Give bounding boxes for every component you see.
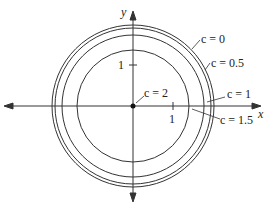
curve-label-c-0: c = 0: [201, 32, 225, 46]
center-point: [131, 104, 136, 109]
y-axis-label: y: [120, 5, 127, 19]
y-axis-down-arrow-icon: [130, 193, 136, 202]
x-axis-left-arrow-icon: [4, 103, 13, 109]
curve-label-c-0.5: c = 0.5: [211, 56, 244, 70]
curve-label-c-1: c = 1: [227, 87, 251, 101]
leader-lines: [136, 40, 225, 119]
curve-label-c-1.5: c = 1.5: [220, 113, 253, 127]
y-axis-up-arrow-icon: [130, 11, 136, 20]
x-axis-label: x: [257, 107, 264, 121]
center-label: c = 2: [144, 86, 168, 100]
level-curves-diagram: y x 1 1 c = 2 c = 0 c = 0.5 c = 1 c = 1.…: [0, 0, 269, 205]
y-tick-label: 1: [118, 58, 124, 72]
x-tick-label: 1: [169, 112, 175, 126]
